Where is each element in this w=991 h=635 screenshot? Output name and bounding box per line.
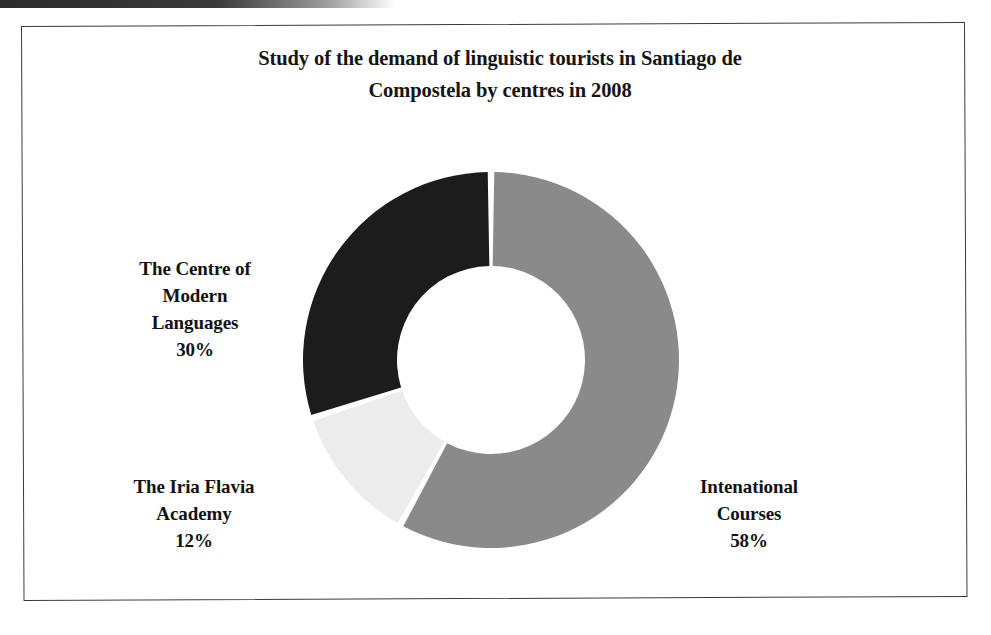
donut-slice-group: [303, 172, 679, 548]
slice-label-line-1: The Centre of: [85, 256, 305, 283]
donut-slice-the-centre-of-modern-languages: [303, 172, 489, 415]
slice-label-line-2: Modern: [85, 283, 305, 310]
slice-label-line-1: The Iria Flavia: [78, 474, 310, 501]
slice-value-the-centre-of-modern-languages: 30%: [85, 337, 305, 364]
slice-label-line-2: Academy: [78, 501, 310, 528]
slice-label-line-1: Intenational: [640, 474, 858, 501]
slice-label-intenational-courses: Intenational Courses 58%: [640, 474, 858, 555]
slice-label-line-2: Courses: [640, 501, 858, 528]
slice-label-line-3: Languages: [85, 310, 305, 337]
slice-value-intenational-courses: 58%: [640, 528, 858, 555]
slice-label-the-centre-of-modern-languages: The Centre of Modern Languages 30%: [85, 256, 305, 364]
slice-value-the-iria-flavia-academy: 12%: [78, 528, 310, 555]
chart-area: Study of the demand of linguistic touris…: [0, 0, 991, 635]
slice-label-the-iria-flavia-academy: The Iria Flavia Academy 12%: [78, 474, 310, 555]
